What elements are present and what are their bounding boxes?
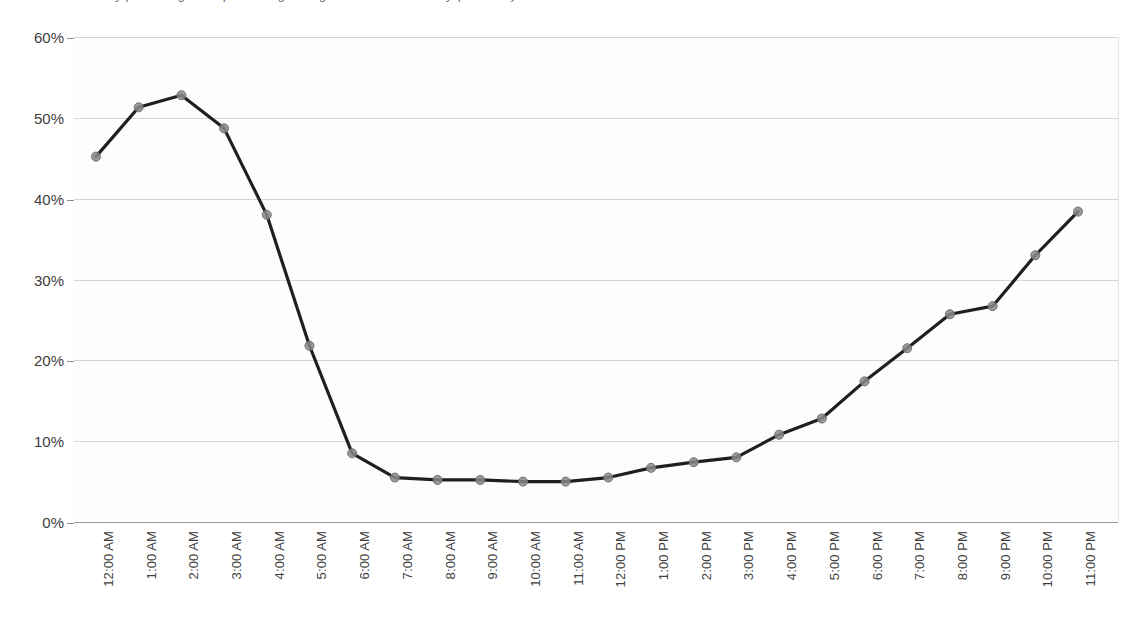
y-axis-label-40%: 40% (34, 190, 64, 207)
plot-area (74, 37, 1119, 522)
x-axis-label-12-00-pm: 12:00 PM (613, 531, 628, 587)
data-point (732, 453, 741, 462)
y-axis-label-10%: 10% (34, 433, 64, 450)
y-axis-label-0%: 0% (42, 514, 64, 531)
x-axis-label-11-00-pm: 11:00 PM (1083, 531, 1098, 586)
x-axis-label-4-00-am: 4:00 AM (272, 531, 287, 579)
data-point (817, 414, 826, 423)
data-point (1031, 251, 1040, 260)
x-axis-label-2-00-pm: 2:00 PM (699, 531, 714, 580)
data-point (903, 344, 912, 353)
gridline-0% (74, 522, 1118, 523)
y-axis-label-50%: 50% (34, 109, 64, 126)
data-point (220, 124, 229, 133)
data-point (390, 473, 399, 482)
x-axis-label-5-00-pm: 5:00 PM (827, 531, 842, 580)
data-point (518, 477, 527, 486)
x-axis-label-3-00-pm: 3:00 PM (741, 531, 756, 580)
x-axis-label-9-00-am: 9:00 AM (485, 531, 500, 579)
data-point (1074, 207, 1083, 216)
data-point (945, 310, 954, 319)
data-point (860, 377, 869, 386)
y-axis-label-20%: 20% (34, 352, 64, 369)
data-point (305, 341, 314, 350)
data-point (604, 473, 613, 482)
data-point (476, 475, 485, 484)
x-axis-label-6-00-am: 6:00 AM (357, 531, 372, 579)
x-axis-label-10-00-pm: 10:00 PM (1040, 531, 1055, 587)
x-axis-label-7-00-am: 7:00 AM (400, 531, 415, 579)
series-polyline (96, 95, 1078, 481)
x-axis-label-12-00-am: 12:00 AM (101, 531, 116, 587)
x-axis-label-4-00-pm: 4:00 PM (784, 531, 799, 580)
data-point (134, 103, 143, 112)
line-chart: hourly percentage of trips starting duri… (0, 0, 1146, 622)
y-tick-mark (67, 200, 74, 201)
series-markers (92, 91, 1083, 486)
y-tick-mark (67, 523, 74, 524)
x-axis-label-8-00-pm: 8:00 PM (955, 531, 970, 580)
data-point (689, 458, 698, 467)
x-axis-label-5-00-am: 5:00 AM (314, 531, 329, 579)
data-point (775, 430, 784, 439)
x-axis-label-2-00-am: 2:00 AM (186, 531, 201, 579)
y-axis-label-60%: 60% (34, 29, 64, 46)
x-axis-label-7-00-pm: 7:00 PM (912, 531, 927, 580)
y-tick-mark (67, 361, 74, 362)
x-axis-label-9-00-pm: 9:00 PM (998, 531, 1013, 580)
x-axis-label-6-00-pm: 6:00 PM (870, 531, 885, 580)
series-line-trips-by-hour (74, 37, 1118, 522)
y-axis-label-30%: 30% (34, 271, 64, 288)
y-tick-mark (67, 38, 74, 39)
x-axis-label-1-00-pm: 1:00 PM (656, 531, 671, 580)
x-axis-label-10-00-am: 10:00 AM (528, 531, 543, 587)
data-point (177, 91, 186, 100)
data-point (988, 302, 997, 311)
data-point (433, 475, 442, 484)
chart-title: hourly percentage of trips starting duri… (86, 0, 517, 2)
data-point (348, 449, 357, 458)
x-axis-label-11-00-am: 11:00 AM (571, 531, 586, 586)
data-point (262, 210, 271, 219)
data-point (647, 463, 656, 472)
x-axis-label-3-00-am: 3:00 AM (229, 531, 244, 579)
x-axis-label-1-00-am: 1:00 AM (144, 531, 159, 579)
data-point (561, 477, 570, 486)
data-point (92, 152, 101, 161)
x-axis-label-8-00-am: 8:00 AM (443, 531, 458, 579)
